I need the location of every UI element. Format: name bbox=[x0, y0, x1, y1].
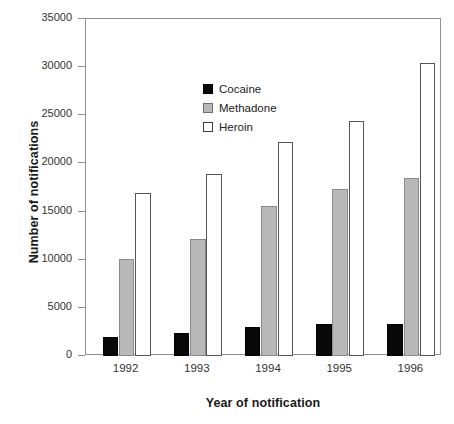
y-axis-tick bbox=[78, 307, 85, 308]
y-axis-tick-label: 20000 bbox=[0, 155, 72, 167]
y-axis-tick-label: 35000 bbox=[0, 11, 72, 23]
y-axis-tick-label: 0 bbox=[0, 348, 72, 360]
legend-swatch-heroin-icon bbox=[203, 122, 213, 132]
bar-cocaine-1993 bbox=[174, 333, 190, 356]
bar-heroin-1994 bbox=[278, 142, 294, 356]
y-axis-tick-label: 5000 bbox=[0, 300, 72, 312]
bar-methadone-1995 bbox=[332, 189, 348, 356]
legend-item-cocaine: Cocaine bbox=[203, 80, 313, 97]
x-axis-tick-label-1995: 1995 bbox=[303, 362, 375, 374]
bar-methadone-1994 bbox=[261, 206, 277, 356]
legend-label: Cocaine bbox=[219, 83, 261, 95]
bar-cocaine-1992 bbox=[103, 337, 119, 356]
x-axis-tick-label-1992: 1992 bbox=[90, 362, 162, 374]
y-axis-tick bbox=[78, 18, 85, 19]
legend-label: Heroin bbox=[219, 121, 253, 133]
bar-methadone-1996 bbox=[404, 178, 420, 356]
legend-swatch-cocaine-icon bbox=[203, 84, 213, 94]
plot-area: CocaineMethadoneHeroin bbox=[85, 18, 441, 355]
bar-cocaine-1995 bbox=[316, 324, 332, 356]
bar-heroin-1993 bbox=[206, 174, 222, 356]
y-axis-tick bbox=[78, 259, 85, 260]
x-axis-title: Year of notification bbox=[85, 396, 441, 410]
bar-cocaine-1994 bbox=[245, 327, 261, 356]
chart-legend: CocaineMethadoneHeroin bbox=[203, 80, 313, 137]
y-axis-tick-label: 30000 bbox=[0, 59, 72, 71]
y-axis-tick bbox=[78, 355, 85, 356]
bar-heroin-1992 bbox=[135, 193, 151, 356]
legend-swatch-methadone-icon bbox=[203, 103, 213, 113]
y-axis-tick-label: 10000 bbox=[0, 252, 72, 264]
y-axis-tick-label: 15000 bbox=[0, 204, 72, 216]
bar-cocaine-1996 bbox=[387, 324, 403, 356]
bar-methadone-1993 bbox=[190, 239, 206, 356]
bar-heroin-1995 bbox=[349, 121, 365, 356]
y-axis-tick bbox=[78, 114, 85, 115]
legend-item-methadone: Methadone bbox=[203, 99, 313, 116]
bar-methadone-1992 bbox=[119, 259, 135, 356]
y-axis-tick bbox=[78, 66, 85, 67]
x-axis-tick-label-1993: 1993 bbox=[161, 362, 233, 374]
x-axis-tick-label-1994: 1994 bbox=[232, 362, 304, 374]
y-axis-tick bbox=[78, 162, 85, 163]
y-axis-tick bbox=[78, 211, 85, 212]
bar-chart-figure: Number of notifications 0500010000150002… bbox=[0, 0, 454, 424]
legend-label: Methadone bbox=[219, 102, 277, 114]
bar-heroin-1996 bbox=[420, 63, 436, 356]
y-axis-tick-label: 25000 bbox=[0, 107, 72, 119]
legend-item-heroin: Heroin bbox=[203, 118, 313, 135]
x-axis-tick-label-1996: 1996 bbox=[374, 362, 446, 374]
